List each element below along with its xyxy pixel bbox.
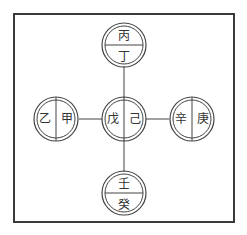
stems-diagram: 丙 丁 乙 甲 戊 己 辛 庚 壬 癸 [0, 0, 247, 235]
stem-left: 乙 [39, 112, 51, 126]
node-top: 丙 丁 [102, 23, 146, 67]
stem-upper: 壬 [118, 177, 130, 191]
node-right: 辛 庚 [170, 97, 214, 141]
stem-upper: 丙 [118, 29, 130, 43]
stem-lower: 癸 [118, 198, 130, 212]
stem-lower: 丁 [118, 50, 130, 64]
node-center: 戊 己 [102, 97, 146, 141]
node-left: 乙 甲 [34, 97, 78, 141]
stem-right: 庚 [197, 111, 209, 126]
stem-left: 辛 [175, 112, 187, 126]
node-bottom: 壬 癸 [102, 171, 146, 215]
stem-left: 戊 [107, 112, 119, 126]
stem-right: 己 [129, 112, 141, 126]
stem-right: 甲 [61, 112, 73, 126]
